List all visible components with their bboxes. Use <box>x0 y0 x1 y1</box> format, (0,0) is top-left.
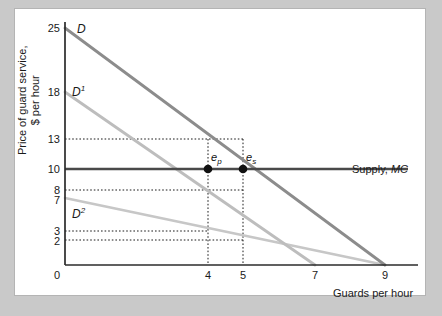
equilibrium-label-ep-sub: p <box>217 157 221 166</box>
curve-label-d1: D1 <box>72 85 85 98</box>
y-tick-7: 7 <box>36 195 60 206</box>
y-tick-18: 18 <box>36 87 60 98</box>
supply-label-mc: MC <box>391 163 408 175</box>
curve-label-supply-mc: Supply, MC <box>352 163 408 175</box>
curve-label-d: D <box>77 23 86 35</box>
x-tick-5: 5 <box>233 270 253 281</box>
x-tick-4: 4 <box>198 270 218 281</box>
y-axis-title-line2: $ per hour <box>29 75 41 125</box>
curve-label-d1-text: D <box>72 85 81 99</box>
curve-label-d2: D2 <box>72 207 85 220</box>
curve-d <box>65 28 385 265</box>
equilibrium-label-es-sub: s <box>252 157 256 166</box>
y-tick-25: 25 <box>36 23 60 34</box>
curve-label-d1-sup: 1 <box>81 84 85 93</box>
x-tick-9: 9 <box>375 270 395 281</box>
x-tick-7: 7 <box>305 270 325 281</box>
y-tick-0: 0 <box>36 270 60 281</box>
y-tick-13: 13 <box>36 134 60 145</box>
y-tick-2: 2 <box>36 236 60 247</box>
curve-label-d2-sup: 2 <box>81 206 85 215</box>
curve-label-d-text: D <box>77 22 86 36</box>
y-tick-10: 10 <box>36 164 60 175</box>
curve-label-d2-text: D <box>72 207 81 221</box>
equilibrium-label-ep: ep <box>211 152 222 166</box>
y-axis-title-line1: Price of guard service, <box>16 46 28 155</box>
curve-d1 <box>65 92 315 265</box>
x-axis-title: Guards per hour <box>333 288 413 299</box>
supply-label-plain: Supply, <box>352 163 388 175</box>
equilibrium-label-es: es <box>246 152 256 166</box>
